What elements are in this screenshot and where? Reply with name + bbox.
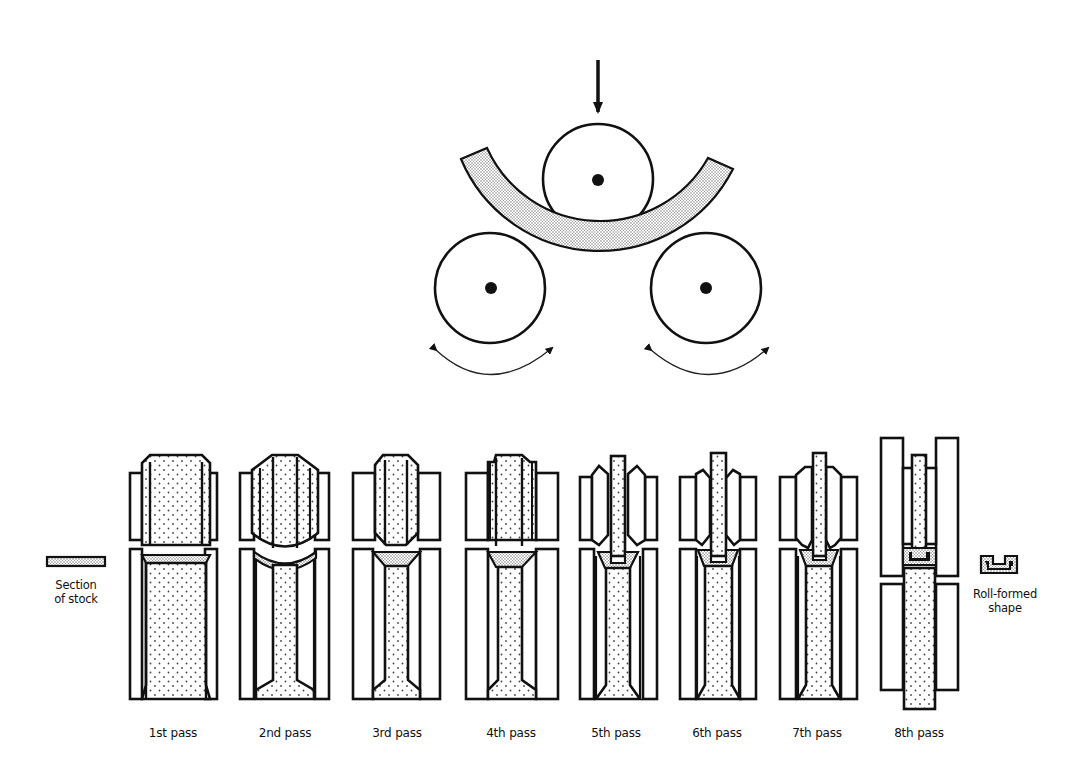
pass-5-label: 5th pass — [571, 726, 661, 740]
pass-2-rolls — [240, 455, 329, 699]
top-roll-axle — [592, 174, 604, 186]
pass-4-label: 4th pass — [466, 726, 556, 740]
three-roll-bender — [435, 60, 768, 375]
pass-7-rolls — [780, 453, 857, 699]
right-roll-axle — [700, 282, 712, 294]
pass-6-label: 6th pass — [672, 726, 762, 740]
result-label-line2: shape — [963, 601, 1047, 615]
pass-4-rolls — [466, 455, 558, 699]
pass-6-rolls — [680, 453, 756, 699]
roll-forming-diagram — [0, 0, 1085, 779]
stock-label-line2: of stock — [40, 592, 112, 606]
left-rotation-arrow-icon — [436, 348, 552, 375]
roll-formed-shape-label: Roll-formed shape — [963, 587, 1047, 615]
stock-section-icon — [47, 557, 105, 566]
roll-formed-shape-icon — [981, 556, 1017, 573]
pass-3-rolls — [353, 455, 440, 699]
left-roll-axle — [485, 282, 497, 294]
pass-1-rolls — [130, 455, 217, 699]
stock-label-line1: Section — [40, 578, 112, 592]
right-rotation-arrow-icon — [651, 348, 768, 375]
pass-2-label: 2nd pass — [240, 726, 330, 740]
pass-7-label: 7th pass — [772, 726, 862, 740]
result-label-line1: Roll-formed — [963, 587, 1047, 601]
pass-8-label: 8th pass — [874, 726, 964, 740]
pass-5-rolls — [580, 456, 657, 699]
pass-8-rolls — [881, 438, 958, 709]
stock-section-label: Section of stock — [40, 578, 112, 606]
pass-1-label: 1st pass — [128, 726, 218, 740]
pass-3-label: 3rd pass — [352, 726, 442, 740]
